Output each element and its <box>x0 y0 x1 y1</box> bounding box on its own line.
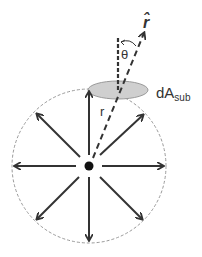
theta-arc <box>121 41 136 46</box>
r-label: r <box>100 104 105 119</box>
area-label: dAsub <box>156 84 191 103</box>
gauss-diagram: r̂ θ r dAsub <box>0 0 202 257</box>
r-hat-label: r̂ <box>143 12 150 31</box>
point-charge <box>85 162 94 171</box>
theta-label: θ <box>121 47 128 62</box>
